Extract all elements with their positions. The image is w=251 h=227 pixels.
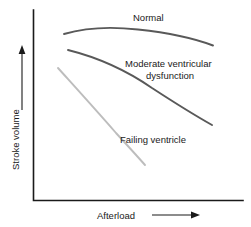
chart-canvas: Stroke volume Afterload Normal Moderate … [0,0,251,227]
x-axis-label: Afterload [97,210,135,221]
stroke-volume-afterload-figure: Stroke volume Afterload Normal Moderate … [0,0,251,227]
curve-label-moderate-line2: dysfunction [146,70,194,81]
curve-failing-ventricle [58,68,145,165]
curve-label-failing-ventricle: Failing ventricle [120,134,186,145]
axis-frame [34,10,244,201]
curve-label-normal: Normal [133,12,164,23]
curve-label-moderate-line1: Moderate ventricular [125,58,212,69]
curve-normal [64,28,213,46]
y-axis-arrow-icon [19,45,26,110]
y-axis-label: Stroke volume [10,109,21,170]
x-axis-arrow-icon [152,212,200,219]
